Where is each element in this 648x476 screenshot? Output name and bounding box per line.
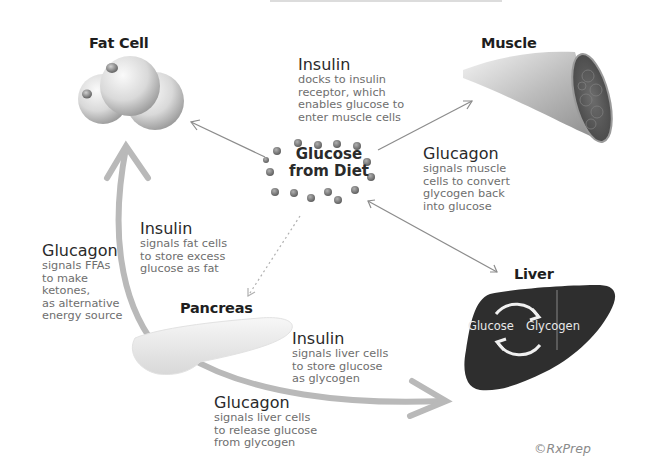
- annotation-text: signals fat cells to store excess glucos…: [140, 238, 227, 276]
- annotation-insulin-fat: Insulin signals fat cells to store exces…: [140, 220, 227, 276]
- muscle-icon: [463, 50, 619, 146]
- fat-cell-icon: [78, 56, 184, 130]
- annotation-glucagon-fat: Glucagon signals FFAs to make ketones, a…: [42, 242, 122, 323]
- liver-glucose-label: Glucose: [468, 319, 514, 333]
- liver-title: Liver: [514, 266, 554, 282]
- annotation-text: signals muscle cells to convert glycogen…: [423, 163, 510, 213]
- annotation-text: docks to insulin receptor, which enables…: [298, 74, 404, 124]
- annotation-glucagon-liver: Glucagon signals liver cells to release …: [214, 394, 317, 450]
- hormone-label: Insulin: [140, 220, 227, 238]
- thick-curved-arrows: [107, 146, 446, 416]
- pancreas-icon: [132, 318, 292, 375]
- pancreas-title: Pancreas: [180, 300, 253, 316]
- hormone-label: Glucagon: [42, 242, 122, 260]
- copyright: ©RxPrep: [534, 441, 591, 456]
- hormone-label: Glucagon: [214, 394, 317, 412]
- hormone-label: Insulin: [298, 56, 404, 74]
- dotted-arrow: [248, 216, 300, 296]
- hormone-label: Glucagon: [423, 145, 510, 163]
- muscle-title: Muscle: [481, 35, 537, 51]
- annotation-text: signals FFAs to make ketones, as alterna…: [42, 260, 122, 323]
- hormone-label: Insulin: [292, 330, 388, 348]
- annotation-insulin-liver: Insulin signals liver cells to store glu…: [292, 330, 388, 386]
- fat-cell-title: Fat Cell: [89, 35, 149, 51]
- liver-icon: [464, 285, 615, 390]
- glucose-title: Glucose from Diet: [280, 146, 378, 180]
- liver-glycogen-label: Glycogen: [526, 319, 580, 333]
- annotation-glucagon-muscle: Glucagon signals muscle cells to convert…: [423, 145, 510, 213]
- annotation-insulin-muscle: Insulin docks to insulin receptor, which…: [298, 56, 404, 124]
- annotation-text: signals liver cells to store glucose as …: [292, 348, 388, 386]
- annotation-text: signals liver cells to release glucose f…: [214, 412, 317, 450]
- diagram-canvas: Fat Cell Muscle Glucose from Diet Pancre…: [0, 0, 648, 476]
